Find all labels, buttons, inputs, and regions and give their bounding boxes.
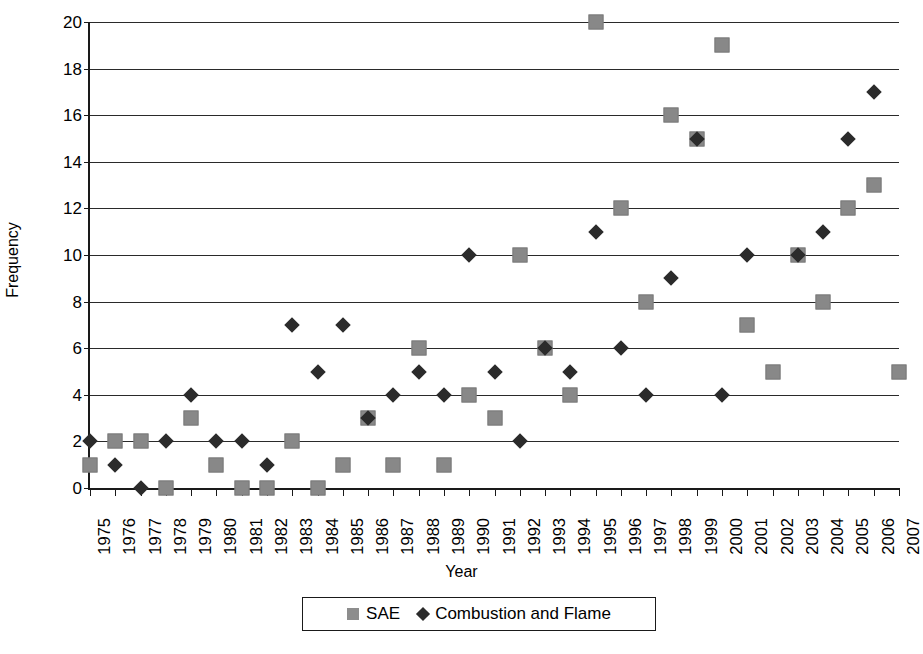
- x-tick-mark: [773, 488, 774, 496]
- data-point-sae: [386, 457, 401, 472]
- y-tick-label: 6: [73, 340, 82, 357]
- x-tick-label: 1995: [602, 518, 619, 555]
- data-point-combustion-and-flame: [613, 340, 629, 356]
- data-point-combustion-and-flame: [335, 317, 351, 333]
- legend-label-combustion-and-flame: Combustion and Flame: [435, 604, 611, 624]
- gridline: [90, 395, 899, 396]
- gridline: [90, 115, 899, 116]
- x-tick-mark: [520, 488, 521, 496]
- y-tick-label: 12: [63, 200, 82, 217]
- x-tick-mark: [419, 488, 420, 496]
- data-point-sae: [563, 387, 578, 402]
- data-point-combustion-and-flame: [158, 434, 174, 450]
- square-marker-icon: [347, 608, 359, 620]
- x-tick-label: 2007: [905, 518, 922, 555]
- data-point-sae: [209, 457, 224, 472]
- x-tick-label: 1989: [450, 518, 467, 555]
- y-tick-label: 16: [63, 107, 82, 124]
- y-tick-mark: [84, 348, 90, 349]
- x-tick-mark: [216, 488, 217, 496]
- x-tick-mark: [621, 488, 622, 496]
- y-tick-mark: [84, 69, 90, 70]
- data-point-sae: [740, 317, 755, 332]
- data-point-combustion-and-flame: [664, 271, 680, 287]
- x-tick-label: 1981: [248, 518, 265, 555]
- gridline: [90, 302, 899, 303]
- x-tick-mark: [596, 488, 597, 496]
- data-point-sae: [436, 457, 451, 472]
- data-point-combustion-and-flame: [866, 84, 882, 100]
- data-point-sae: [639, 294, 654, 309]
- data-point-sae: [411, 341, 426, 356]
- gridline: [90, 348, 899, 349]
- data-point-combustion-and-flame: [108, 457, 124, 473]
- x-tick-label: 1993: [551, 518, 568, 555]
- x-tick-label: 1977: [147, 518, 164, 555]
- x-tick-mark: [899, 488, 900, 496]
- x-tick-mark: [469, 488, 470, 496]
- y-tick-label: 2: [73, 433, 82, 450]
- data-point-sae: [487, 411, 502, 426]
- data-point-combustion-and-flame: [436, 387, 452, 403]
- data-point-sae: [335, 457, 350, 472]
- x-tick-label: 1996: [627, 518, 644, 555]
- y-axis-title: Frequency: [4, 160, 22, 360]
- x-tick-mark: [444, 488, 445, 496]
- data-point-combustion-and-flame: [411, 364, 427, 380]
- data-point-sae: [184, 411, 199, 426]
- x-tick-label: 1978: [172, 518, 189, 555]
- gridline: [90, 22, 899, 23]
- x-tick-label: 1997: [652, 518, 669, 555]
- data-point-sae: [664, 108, 679, 123]
- x-tick-mark: [393, 488, 394, 496]
- data-point-combustion-and-flame: [183, 387, 199, 403]
- x-tick-mark: [823, 488, 824, 496]
- y-tick-label: 14: [63, 153, 82, 170]
- x-tick-mark: [570, 488, 571, 496]
- data-point-combustion-and-flame: [82, 434, 98, 450]
- chart-legend: SAE Combustion and Flame: [302, 597, 656, 631]
- data-point-combustion-and-flame: [284, 317, 300, 333]
- y-tick-mark: [84, 115, 90, 116]
- legend-item-sae[interactable]: SAE: [347, 604, 400, 624]
- x-tick-mark: [671, 488, 672, 496]
- data-point-sae: [613, 201, 628, 216]
- data-point-sae: [816, 294, 831, 309]
- data-point-combustion-and-flame: [234, 434, 250, 450]
- scatter-chart: Frequency 024681012141618201975197619771…: [0, 0, 923, 654]
- x-tick-label: 2004: [829, 518, 846, 555]
- legend-item-combustion-and-flame[interactable]: Combustion and Flame: [418, 604, 611, 624]
- data-point-combustion-and-flame: [740, 247, 756, 263]
- data-point-combustion-and-flame: [638, 387, 654, 403]
- x-tick-label: 1987: [399, 518, 416, 555]
- x-tick-label: 1982: [273, 518, 290, 555]
- data-point-sae: [259, 481, 274, 496]
- data-point-sae: [715, 38, 730, 53]
- y-tick-mark: [84, 302, 90, 303]
- x-tick-label: 1983: [298, 518, 315, 555]
- x-tick-label: 1980: [222, 518, 239, 555]
- data-point-sae: [512, 248, 527, 263]
- data-point-sae: [234, 481, 249, 496]
- y-tick-mark: [84, 255, 90, 256]
- data-point-sae: [133, 434, 148, 449]
- page-artifact: [0, 636, 923, 654]
- data-point-sae: [285, 434, 300, 449]
- legend-label-sae: SAE: [366, 604, 400, 624]
- y-tick-label: 20: [63, 14, 82, 31]
- x-tick-label: 1994: [576, 518, 593, 555]
- x-tick-mark: [646, 488, 647, 496]
- x-tick-label: 1999: [703, 518, 720, 555]
- x-tick-mark: [343, 488, 344, 496]
- x-tick-label: 1990: [475, 518, 492, 555]
- x-tick-label: 1998: [677, 518, 694, 555]
- data-point-combustion-and-flame: [563, 364, 579, 380]
- x-tick-mark: [545, 488, 546, 496]
- data-point-combustion-and-flame: [209, 434, 225, 450]
- x-tick-mark: [90, 488, 91, 496]
- data-point-combustion-and-flame: [714, 387, 730, 403]
- y-tick-mark: [84, 22, 90, 23]
- data-point-combustion-and-flame: [512, 434, 528, 450]
- x-tick-label: 2001: [753, 518, 770, 555]
- gridline: [90, 69, 899, 70]
